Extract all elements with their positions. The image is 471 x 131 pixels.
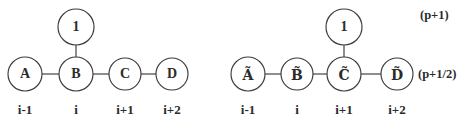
right-stencil: 1 Ã i-1 B̃ i C̃ i+1	[231, 9, 413, 117]
figure-canvas: 1 A i-1 B i C i+1 D	[0, 0, 471, 131]
node-label: 1	[341, 19, 348, 34]
node-label: A	[20, 66, 31, 81]
node-b-tilde: B̃ i	[281, 58, 313, 117]
node-d-tilde: D̃ i+2	[381, 58, 413, 117]
node-index-label: i+1	[335, 102, 353, 117]
row-label-p-plus-1: (p+1)	[420, 8, 449, 22]
node-label: B	[71, 66, 80, 81]
node-d: D i+2	[156, 58, 188, 117]
node-index-label: i	[74, 102, 78, 117]
left-stencil: 1 A i-1 B i C i+1 D	[8, 9, 188, 117]
node-label: D	[167, 66, 177, 81]
node-index-label: i+1	[116, 102, 134, 117]
node-index-label: i+2	[388, 102, 406, 117]
node-c: C i+1	[109, 58, 141, 117]
node-label: C̃	[338, 66, 349, 83]
node-index-label: i+2	[163, 102, 181, 117]
node-c-tilde: C̃ i+1	[327, 57, 361, 117]
node-label: B̃	[291, 66, 303, 83]
node-index-label: i	[295, 102, 299, 117]
node-label: D̃	[391, 66, 403, 83]
stencil-figure: 1 A i-1 B i C i+1 D	[0, 0, 471, 131]
node-index-label: i-1	[18, 102, 32, 117]
row-label-p-plus-half: (p+1/2)	[418, 67, 456, 81]
node-top-left: 1	[58, 9, 94, 45]
node-label: C	[120, 66, 130, 81]
node-a-tilde: Ã i-1	[231, 57, 265, 117]
node-a: A i-1	[8, 57, 42, 117]
node-index-label: i-1	[241, 102, 255, 117]
node-label: 1	[73, 19, 80, 34]
node-b: B i	[59, 57, 93, 117]
node-top-right: 1	[326, 9, 362, 45]
node-label: Ã	[242, 65, 255, 83]
